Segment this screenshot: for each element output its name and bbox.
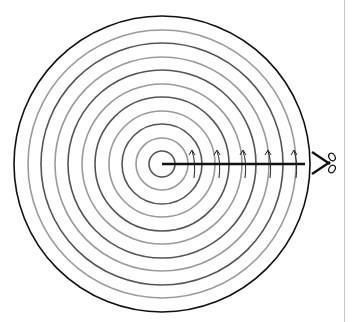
concentric-rings-diagram <box>0 0 360 322</box>
scissors-icon <box>312 152 337 174</box>
right-border-line <box>344 0 345 322</box>
